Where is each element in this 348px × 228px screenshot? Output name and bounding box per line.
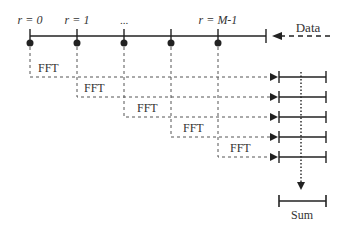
data-timeline <box>30 29 266 43</box>
fft-segment-sum-diagram: r = 0 r = 1 ... r = M-1 Data FFT FFT FFT… <box>0 0 348 228</box>
segment-dot <box>168 40 175 47</box>
segment-start-markers <box>27 40 222 47</box>
sum-arrow <box>297 72 305 190</box>
segment-label-rM-1: r = M-1 <box>199 13 238 27</box>
sum-segment <box>279 195 326 207</box>
fft-label: FFT <box>230 141 251 155</box>
segment-label-ellipsis: ... <box>120 14 129 26</box>
data-label: Data <box>296 20 321 35</box>
fft-label: FFT <box>84 81 105 95</box>
segment-dot <box>121 40 128 47</box>
fft-output-segments <box>279 71 326 163</box>
segment-label-r0: r = 0 <box>18 13 43 27</box>
segment-label-r1: r = 1 <box>65 13 90 27</box>
fft-label: FFT <box>38 61 59 75</box>
segment-dot <box>27 40 34 47</box>
segment-dot <box>215 40 222 47</box>
fft-label: FFT <box>183 121 204 135</box>
sum-label: Sum <box>291 208 314 222</box>
output-arrowheads <box>270 73 278 161</box>
segment-dot <box>74 40 81 47</box>
fft-label: FFT <box>137 101 158 115</box>
